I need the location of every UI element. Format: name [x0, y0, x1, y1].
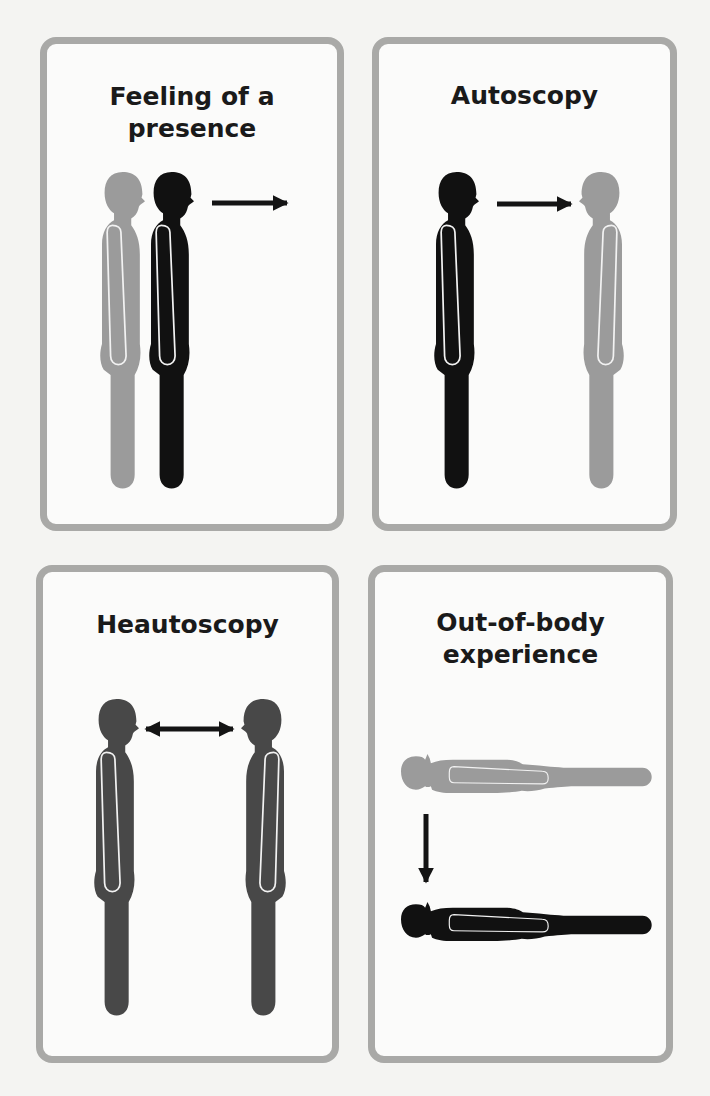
panel-feeling-of-a-presence: Feeling of a presence [40, 37, 344, 531]
out-of-body-illustration [375, 572, 666, 1056]
self-figure [149, 172, 194, 488]
panel-autoscopy: Autoscopy [372, 37, 677, 531]
presence-double-figure [100, 172, 145, 488]
panel-out-of-body-experience: Out-of-body experience [368, 565, 673, 1063]
panel-heautoscopy: Heautoscopy [36, 565, 339, 1063]
body-figure [401, 902, 652, 941]
left-figure [94, 699, 139, 1015]
autoscopy-illustration [379, 44, 670, 524]
self-figure [434, 172, 479, 488]
double-figure [579, 172, 624, 488]
elevated-figure [401, 754, 652, 793]
right-figure [241, 699, 286, 1015]
heautoscopy-illustration [43, 572, 332, 1056]
presence-illustration [47, 44, 337, 524]
